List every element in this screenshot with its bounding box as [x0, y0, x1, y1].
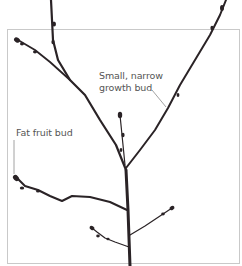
left-side-shoot — [18, 40, 70, 80]
lower-left-twig — [92, 228, 129, 247]
left-fruit-branch — [17, 178, 127, 210]
lower-right-twig — [130, 208, 172, 235]
main-trunk — [126, 170, 130, 266]
fruit-bud-label: Fat fruit bud — [16, 127, 73, 139]
growth-bud-label: Small, narrow growth bud — [99, 70, 163, 94]
growth-bud-label-line2: growth bud — [99, 82, 163, 94]
growth-bud-label-line1: Small, narrow — [99, 70, 163, 82]
growth-bud — [118, 112, 122, 118]
